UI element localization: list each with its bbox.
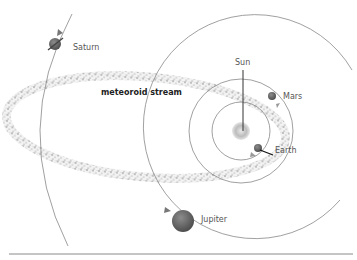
solar-system-diagram (0, 0, 357, 260)
earth-pointer (260, 150, 273, 155)
meteoroid-stream-label: meteoroid stream (101, 89, 182, 97)
jupiter-label: Jupiter (201, 216, 227, 224)
mars-label: Mars (283, 93, 302, 101)
saturn-label: Saturn (73, 44, 99, 52)
jupiter-planet (172, 210, 194, 232)
earth-label: Earth (275, 147, 296, 155)
jupiter-direction-arrow (164, 207, 171, 213)
jupiter-orbit-left (155, 165, 157, 166)
mars-planet (268, 92, 276, 100)
mars-direction-arrow (276, 103, 280, 108)
saturn-planet (48, 38, 63, 50)
sun-label: Sun (235, 59, 250, 67)
sun (232, 122, 250, 140)
